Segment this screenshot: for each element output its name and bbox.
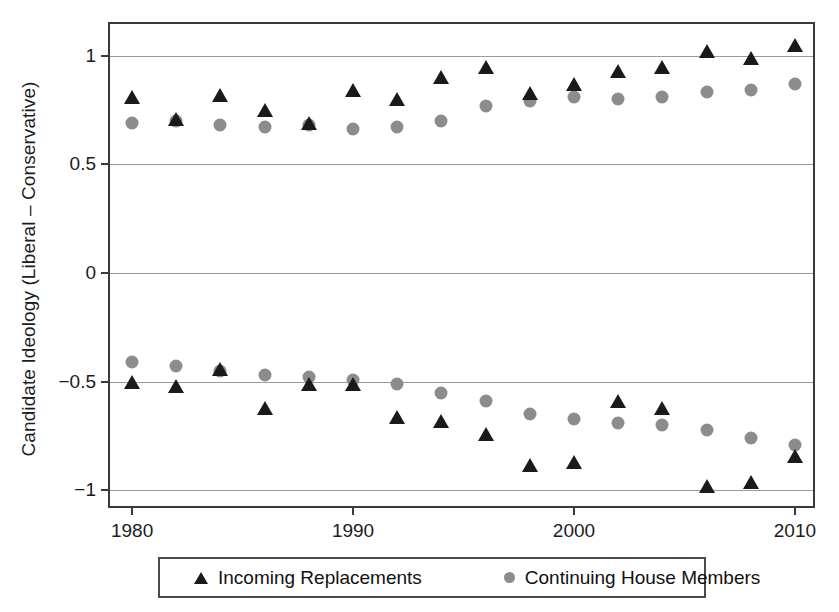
data-point-circle [258,369,271,382]
legend-label-incoming-replacements: Incoming Replacements [218,567,422,589]
data-point-triangle [699,44,715,58]
y-tick-label: 0.5 [36,153,110,175]
data-point-circle [435,114,448,127]
data-point-triangle [654,401,670,415]
data-point-circle [612,417,625,430]
data-point-triangle [301,116,317,130]
data-point-triangle [168,112,184,126]
legend-item-continuing-house-members[interactable]: Continuing House Members [504,567,761,589]
y-tick-label: −0.5 [36,371,110,393]
data-point-circle [214,119,227,132]
circle-marker-icon [504,572,515,583]
data-point-circle [523,408,536,421]
legend-item-incoming-replacements[interactable]: Incoming Replacements [194,567,422,589]
data-point-circle [479,395,492,408]
x-tick-mark [352,506,354,515]
data-point-triangle [566,455,582,469]
data-point-triangle [257,401,273,415]
data-point-triangle [124,90,140,104]
data-point-triangle [478,60,494,74]
x-tick-label: 1990 [332,520,374,542]
data-point-circle [656,90,669,103]
y-tick-label: −1 [36,479,110,501]
gridline-y [110,382,813,383]
data-point-triangle [433,414,449,428]
data-point-triangle [345,83,361,97]
triangle-marker-icon [194,572,208,584]
chart-figure: Candidate Ideology (Liberal – Conservati… [0,0,839,612]
data-point-triangle [743,51,759,65]
legend-label-continuing-house-members: Continuing House Members [525,567,761,589]
data-point-circle [126,116,139,129]
data-point-triangle [478,427,494,441]
data-point-triangle [301,377,317,391]
data-point-triangle [610,394,626,408]
x-tick-label: 1980 [111,520,153,542]
data-point-triangle [389,410,405,424]
data-point-triangle [522,86,538,100]
gridline-y [110,164,813,165]
x-tick-label: 2010 [774,520,816,542]
data-point-triangle [389,92,405,106]
y-tick-label: 0 [36,262,110,284]
x-tick-label: 2000 [553,520,595,542]
data-point-circle [744,432,757,445]
data-point-triangle [787,449,803,463]
data-point-triangle [257,103,273,117]
data-point-circle [612,93,625,106]
data-point-circle [391,377,404,390]
data-point-circle [258,121,271,134]
y-tick-label: 1 [36,45,110,67]
data-point-circle [479,99,492,112]
plot-area: −1−0.500.511980199020002010 [108,22,815,508]
data-point-triangle [699,479,715,493]
data-point-triangle [212,362,228,376]
data-point-circle [435,386,448,399]
data-point-triangle [522,458,538,472]
data-point-circle [700,423,713,436]
data-point-circle [347,123,360,136]
gridline-y [110,273,813,274]
data-point-triangle [787,38,803,52]
data-point-circle [126,356,139,369]
data-point-circle [788,77,801,90]
data-point-circle [170,360,183,373]
x-tick-mark [573,506,575,515]
data-point-triangle [212,88,228,102]
data-point-triangle [566,77,582,91]
data-point-circle [567,90,580,103]
data-point-circle [656,419,669,432]
data-point-circle [391,121,404,134]
data-point-triangle [610,64,626,78]
x-tick-mark [131,506,133,515]
x-tick-mark [794,506,796,515]
data-point-triangle [433,70,449,84]
data-point-circle [567,412,580,425]
data-point-triangle [345,377,361,391]
data-point-triangle [654,60,670,74]
chart-legend: Incoming Replacements Continuing House M… [158,557,706,598]
data-point-triangle [168,379,184,393]
data-point-circle [700,86,713,99]
data-point-circle [744,84,757,97]
data-point-triangle [743,475,759,489]
data-point-triangle [124,375,140,389]
